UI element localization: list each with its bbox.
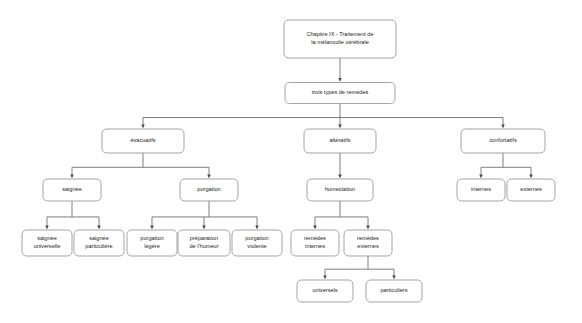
node-label: préparationde l'humeur — [189, 236, 218, 249]
node-label: remèdesinternes — [304, 236, 326, 249]
node-label: saignéeuniverselle — [34, 236, 61, 249]
node-label: humectation — [325, 186, 355, 192]
node-universels[interactable]: universels — [297, 280, 353, 302]
node-label: saignée — [62, 186, 82, 192]
node-rem-internes[interactable]: remèdesinternes — [291, 230, 339, 256]
node-label: internes — [471, 186, 491, 192]
node-saignee-part[interactable]: saignéeparticulière — [74, 230, 124, 256]
node-label: purgationviolente — [245, 236, 268, 249]
node-evacuatifs[interactable]: évacuatifs — [102, 129, 184, 153]
node-rem-externes[interactable]: remèdesexternes — [344, 230, 392, 256]
node-purgation[interactable]: purgation — [180, 179, 238, 201]
node-alteratifs[interactable]: altératifs — [304, 129, 376, 153]
node-saignee-univ[interactable]: saignéeuniverselle — [22, 230, 72, 256]
node-label: trois types de remèdes — [312, 89, 369, 95]
node-label: confortatifs — [489, 137, 517, 143]
node-label: remèdesexternes — [357, 236, 379, 249]
node-root[interactable]: Chapitre IX - Traitement dela mélancolie… — [284, 20, 396, 58]
node-purg-legere[interactable]: purgationlégère — [127, 230, 177, 256]
node-internes[interactable]: internes — [457, 179, 505, 201]
node-purg-viol[interactable]: purgationviolente — [232, 230, 282, 256]
node-externes[interactable]: externes — [507, 179, 555, 201]
node-label: évacuatifs — [130, 137, 155, 143]
node-prep-humeur[interactable]: préparationde l'humeur — [178, 230, 230, 256]
flowchart-canvas: Chapitre IX - Traitement dela mélancolie… — [0, 0, 582, 323]
node-label: universels — [312, 287, 337, 293]
node-label: purgation — [197, 186, 220, 192]
node-label: saignéeparticulière — [85, 236, 112, 249]
flowchart-svg: Chapitre IX - Traitement dela mélancolie… — [0, 0, 582, 323]
node-confortatifs[interactable]: confortatifs — [461, 129, 545, 153]
node-trois[interactable]: trois types de remèdes — [285, 83, 395, 104]
node-label: particuliers — [380, 287, 407, 293]
node-saignee[interactable]: saignée — [43, 179, 101, 201]
node-label: Chapitre IX - Traitement dela mélancolie… — [306, 32, 373, 45]
node-humectation[interactable]: humectation — [307, 179, 373, 201]
node-label: externes — [520, 186, 542, 192]
node-layer: Chapitre IX - Traitement dela mélancolie… — [22, 20, 555, 302]
node-particuliers[interactable]: particuliers — [366, 280, 422, 302]
node-label: altératifs — [329, 137, 350, 143]
